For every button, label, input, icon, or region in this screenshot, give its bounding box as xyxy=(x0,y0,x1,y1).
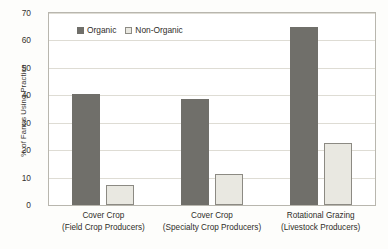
bar-non-organic-2 xyxy=(215,174,243,205)
legend-entry-organic: Organic xyxy=(77,25,116,35)
y-axis-title: % of Farms Using Practice xyxy=(19,26,28,196)
y-tick-label: 50 xyxy=(1,63,31,73)
chart-legend: Organic Non-Organic xyxy=(77,25,183,35)
x-label-line2: (Livestock Producers) xyxy=(281,222,360,234)
gridline xyxy=(49,40,375,41)
legend-label-organic: Organic xyxy=(87,25,116,35)
x-label-line2: (Field Crop Producers) xyxy=(62,222,145,234)
y-tick-label: 70 xyxy=(1,8,31,18)
x-axis-category-label: Cover Crop(Specialty Crop Producers) xyxy=(163,210,261,233)
bar-chart: % of Farms Using Practice 01020304050607… xyxy=(0,0,388,249)
x-axis-labels: Cover Crop(Field Crop Producers)Cover Cr… xyxy=(48,210,376,244)
y-tick-label: 40 xyxy=(1,90,31,100)
y-tick-label: 0 xyxy=(1,200,31,210)
bar-organic-3 xyxy=(290,27,318,205)
y-tick-label: 60 xyxy=(1,35,31,45)
x-label-line1: Rotational Grazing xyxy=(287,211,355,220)
gridline xyxy=(49,13,375,14)
legend-entry-non-organic: Non-Organic xyxy=(125,25,182,35)
x-label-line1: Cover Crop xyxy=(82,211,124,220)
bar-organic-2 xyxy=(181,99,209,205)
bar-non-organic-1 xyxy=(106,185,134,205)
legend-swatch-non-organic-icon xyxy=(125,27,132,34)
plot-inner: 010203040506070 xyxy=(49,13,375,205)
plot-area: 010203040506070 Organic Non-Organic xyxy=(48,12,376,206)
x-label-line2: (Specialty Crop Producers) xyxy=(163,222,261,234)
y-tick-label: 20 xyxy=(1,145,31,155)
x-axis-category-label: Rotational Grazing(Livestock Producers) xyxy=(281,210,360,233)
bar-organic-1 xyxy=(72,94,100,205)
bar-non-organic-3 xyxy=(324,143,352,205)
x-label-line1: Cover Crop xyxy=(191,211,233,220)
y-tick-label: 30 xyxy=(1,118,31,128)
gridline xyxy=(49,68,375,69)
x-axis-category-label: Cover Crop(Field Crop Producers) xyxy=(62,210,145,233)
y-tick-label: 10 xyxy=(1,173,31,183)
legend-label-non-organic: Non-Organic xyxy=(135,25,182,35)
legend-swatch-organic-icon xyxy=(77,27,84,34)
